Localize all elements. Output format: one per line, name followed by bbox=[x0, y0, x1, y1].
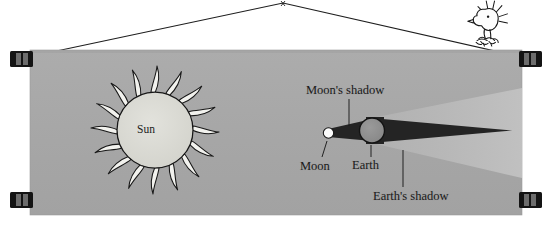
label-earth: Earth bbox=[352, 159, 379, 172]
label-moon: Moon bbox=[300, 160, 330, 173]
bird-eye bbox=[487, 15, 489, 17]
earth-body bbox=[360, 118, 385, 143]
diagram-canvas bbox=[0, 0, 552, 225]
hanging-wire bbox=[33, 1, 521, 57]
sun-disc bbox=[117, 92, 193, 168]
bird-head bbox=[473, 8, 498, 30]
banner-clip-bottom-right bbox=[519, 192, 542, 208]
label-earths-shadow: Earth's shadow bbox=[373, 190, 449, 203]
banner-clip-top-right bbox=[519, 51, 542, 67]
bird-feet bbox=[476, 37, 498, 46]
label-moons-shadow: Moon's shadow bbox=[306, 84, 384, 97]
bird-beak bbox=[468, 19, 474, 23]
label-sun: Sun bbox=[137, 123, 155, 135]
banner-clip-bottom-left bbox=[10, 192, 33, 208]
banner-clip-top-left bbox=[10, 51, 33, 67]
eclipse-diagram-scene: Moon's shadow Moon Earth Earth's shadow … bbox=[0, 0, 552, 225]
moon-body bbox=[323, 128, 333, 138]
woodstock-bird bbox=[468, 1, 508, 46]
